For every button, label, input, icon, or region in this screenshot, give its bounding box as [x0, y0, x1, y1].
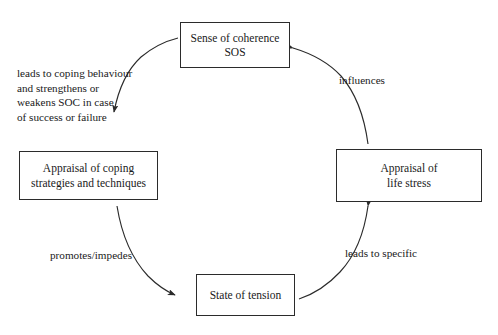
- diagram-canvas: Sense of coherence SOS Appraisal of life…: [0, 0, 498, 335]
- edge-label-influences: influences: [339, 73, 385, 88]
- edge-label-leads-to-specific: leads to specific: [345, 246, 417, 261]
- node-state-of-tension-label: State of tension: [206, 288, 286, 302]
- node-appraisal-life-stress-label: Appraisal of life stress: [376, 161, 441, 190]
- edge-influences-arc: [293, 48, 368, 144]
- edge-label-soc-feedback: leads to coping behaviour and strengthen…: [17, 66, 132, 124]
- node-sense-of-coherence[interactable]: Sense of coherence SOS: [180, 22, 290, 68]
- node-appraisal-of-life-stress[interactable]: Appraisal of life stress: [336, 149, 482, 202]
- node-sos-label: Sense of coherence SOS: [187, 31, 284, 60]
- node-state-of-tension[interactable]: State of tension: [196, 274, 295, 316]
- node-appraisal-of-coping-strategies[interactable]: Appraisal of coping strategies and techn…: [19, 151, 158, 200]
- node-appraisal-coping-label: Appraisal of coping strategies and techn…: [27, 161, 150, 190]
- edge-label-promotes-impedes: promotes/impedes: [50, 248, 132, 263]
